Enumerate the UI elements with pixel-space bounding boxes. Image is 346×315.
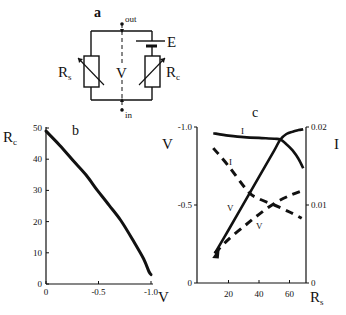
x-tick-label: 20 [224,289,234,299]
panel-label-c: c [252,105,258,120]
figure: a E Rs Rc V out in b [0,0,346,315]
terminal-in-label: in [125,110,133,120]
series-line-rc [46,131,151,275]
y-tick-label: 40 [33,154,43,164]
resistor-rs-arrow [78,58,104,85]
terminal-out-dot [120,22,124,26]
series-label-v-solid: V [227,203,234,213]
x-tick-label: 40 [255,289,265,299]
left-y-tick-label: 0 [188,278,193,288]
chart-c: c V I Rs 0-0.5-1.0 00.010.02 204060 I I … [162,105,339,307]
left-y-axis-label: V [162,136,173,152]
series-label-i-dashed: I [229,157,232,167]
y-tick-label: 10 [33,248,43,258]
y-tick-label: 50 [33,123,43,133]
right-y-tick-label: 0.01 [311,200,327,210]
right-y-tick-label: 0 [311,278,316,288]
voltage-label: V [116,65,127,81]
y-axis-label: Rc [3,129,17,147]
terminal-out-label: out [125,14,137,24]
resistor-rc-arrow [139,58,165,85]
x-tick-label: -0.5 [91,287,106,297]
x-tick-label: 0 [44,287,49,297]
series-label-v-dashed: V [256,221,263,231]
series-label-i-solid: I [241,126,244,136]
left-y-tick-label: -1.0 [178,122,193,132]
y-tick-label: 0 [38,279,43,289]
x-axis-label: V [158,289,169,305]
y-tick-label: 20 [33,217,43,227]
resistor-rc-label: Rc [166,64,180,82]
circuit-diagram: a E Rs Rc V out in [58,5,180,120]
chart-b: b Rc V 01020304050 0-0.5-1.0 [3,123,169,305]
right-y-axis-label: I [334,136,339,152]
left-y-tick-label: -0.5 [178,200,193,210]
y-tick-label: 30 [33,185,43,195]
right-y-tick-label: 0.02 [311,122,327,132]
battery-label: E [167,34,176,50]
panel-label-b: b [72,123,79,138]
panel-label-a: a [94,5,101,20]
x-tick-label: -1.0 [144,287,159,297]
resistor-rs-label: Rs [58,64,72,82]
x-tick-label: 60 [285,289,295,299]
terminal-in-dot [120,108,124,112]
x-axis-label: Rs [310,289,324,307]
